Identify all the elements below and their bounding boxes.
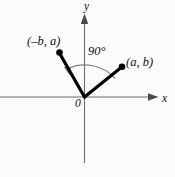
vector-neg-b-a-endpoint-dot [56, 49, 63, 56]
vector-a-b-line [85, 68, 121, 97]
point-label-a-b: (a, b) [126, 56, 153, 69]
point-label-neg-b-a: (–b, a) [27, 35, 60, 48]
y-axis-arrowhead [81, 14, 88, 25]
vector-a-b-endpoint-dot [119, 64, 126, 71]
origin-label: 0 [75, 98, 81, 110]
x-axis-label: x [162, 93, 167, 105]
figure-canvas [0, 0, 175, 177]
coordinate-plane-figure: (–b, a) (a, b) 90° y x 0 [0, 0, 175, 177]
x-axis-arrowhead [148, 93, 159, 100]
vector-neg-b-a-line [60, 54, 85, 97]
angle-label: 90° [88, 45, 106, 58]
y-axis-label: y [84, 1, 89, 13]
